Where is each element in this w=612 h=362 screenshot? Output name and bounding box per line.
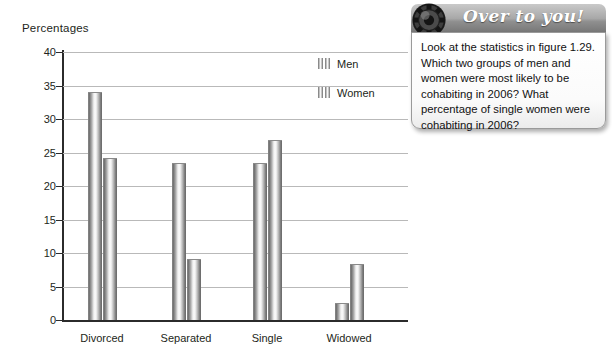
y-axis-tick-label: 35 — [44, 81, 56, 91]
gridline — [63, 320, 408, 322]
callout-text: Look at the statistics in figure 1.29. W… — [421, 40, 596, 134]
y-axis-tick-label: 10 — [44, 248, 56, 258]
x-axis-label-single: Single — [222, 332, 312, 344]
y-axis-tick-label: 25 — [44, 148, 56, 158]
bar-group — [253, 140, 282, 320]
legend-swatch-men — [318, 58, 330, 69]
legend-item-women: Women — [318, 84, 375, 101]
x-axis-label-divorced: Divorced — [57, 332, 147, 344]
y-axis-tick — [56, 287, 62, 288]
legend-label-women: Women — [337, 87, 375, 99]
y-axis-tick — [56, 86, 62, 87]
callout-body: Look at the statistics in figure 1.29. W… — [411, 32, 606, 129]
y-axis-tick — [56, 52, 62, 53]
y-axis-tick-label: 40 — [44, 47, 56, 57]
x-axis-label-separated: Separated — [141, 332, 231, 344]
bar-group — [335, 264, 364, 320]
bar-group — [172, 163, 201, 320]
bar-widowed-men — [335, 303, 349, 320]
legend-swatch-women — [318, 87, 330, 98]
x-axis-label-widowed: Widowed — [304, 332, 394, 344]
y-axis-tick — [56, 320, 62, 321]
gridline — [63, 52, 408, 53]
over-to-you-callout: Over to you! Look at the statistics in f… — [405, 2, 606, 131]
y-axis-tick-label: 20 — [44, 181, 56, 191]
bar-single-women — [268, 140, 282, 320]
bar-group — [88, 92, 117, 320]
y-axis-tick — [56, 253, 62, 254]
y-axis-tick-labels: 4035302520151050 — [20, 0, 56, 362]
y-axis-tick — [56, 119, 62, 120]
callout-title: Over to you! — [463, 6, 584, 26]
y-axis-tick-label: 30 — [44, 114, 56, 124]
chart-legend: Men Women — [318, 55, 375, 113]
bar-divorced-women — [103, 158, 117, 320]
legend-label-men: Men — [337, 58, 358, 70]
y-axis-tick — [56, 153, 62, 154]
bar-divorced-men — [88, 92, 102, 320]
bar-separated-women — [187, 259, 201, 320]
bar-chart: Percentages 4035302520151050 Men Women D… — [0, 0, 430, 362]
bar-separated-men — [172, 163, 186, 320]
y-axis-tick — [56, 186, 62, 187]
bar-single-men — [253, 163, 267, 320]
y-axis-tick — [56, 220, 62, 221]
bar-widowed-women — [350, 264, 364, 320]
y-axis-tick-label: 15 — [44, 215, 56, 225]
legend-item-men: Men — [318, 55, 375, 72]
